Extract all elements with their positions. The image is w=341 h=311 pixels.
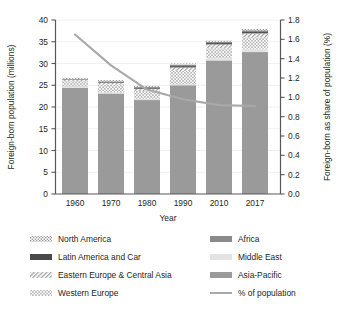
y-axis-right-tick-labels: 1.8 1.6 1.4 1.2 1.0 0.8 0.6 0.4 0.2 0.0 [288,15,300,199]
legend-item-western-europe[interactable]: Western Europe [30,288,119,298]
bar-segment-middle-east [170,84,196,85]
legend-item-latin-america[interactable]: Latin America and Car [30,252,141,262]
legend-swatch-africa [210,236,232,242]
bar-group-1960[interactable] [62,78,88,194]
legend-label-eastern-europe-central-asia: Eastern Europe & Central Asia [58,270,172,280]
legend-label-latin-america: Latin America and Car [58,252,141,262]
bar-segment-middle-east [62,87,88,88]
legend-item-africa[interactable]: Africa [210,234,260,244]
legend-item-asia-pacific[interactable]: Asia-Pacific [210,270,282,280]
bar-segment-western-europe [242,37,268,48]
y-tick-left-35: 35 [39,37,49,47]
legend-swatch-eastern-europe-central-asia [30,272,52,278]
legend-item-middle-east[interactable]: Middle East [210,252,282,262]
chart-legend: North America Latin America and Car East… [30,234,296,298]
bar-segment-north-america [134,86,160,87]
y-axis-right-title: Foreign-born as share of population (%) [322,33,332,181]
y-tick-left-15: 15 [39,124,49,134]
legend-item-north-america[interactable]: North America [30,234,111,244]
bar-segment-asia-pacific [242,52,268,194]
y-tick-right-0-0: 0.0 [288,189,300,199]
legend-label-asia-pacific: Asia-Pacific [238,270,282,280]
x-tick-1990: 1990 [174,198,193,208]
legend-label-western-europe: Western Europe [58,288,119,298]
legend-item-eastern-europe-central-asia[interactable]: Eastern Europe & Central Asia [30,270,172,280]
x-tick-1960: 1960 [66,198,85,208]
bar-segment-eastern-europe-central-asia [62,80,88,81]
y-tick-right-0-4: 0.4 [288,150,300,160]
x-tick-2017: 2017 [246,198,265,208]
y-tick-left-5: 5 [43,167,48,177]
x-tick-1980: 1980 [138,198,157,208]
bar-group-2017[interactable] [242,29,268,194]
bar-segment-north-america [98,80,124,81]
bar-segment-middle-east [206,58,232,60]
bar-group-1990[interactable] [170,64,196,195]
x-axis-title: Year [160,213,177,223]
bar-segment-asia-pacific [98,94,124,194]
bar-segment-latin-america [242,32,268,33]
bar-segment-middle-east [134,99,160,100]
legend-swatch-asia-pacific [210,272,232,278]
legend-label-north-america: North America [58,234,111,244]
y-tick-right-1-6: 1.6 [288,34,300,44]
y-tick-right-0-8: 0.8 [288,112,300,122]
bar-segment-africa [134,87,160,88]
bar-segment-western-europe [98,84,124,92]
bar-segment-africa [170,65,196,66]
y-tick-left-0: 0 [43,189,48,199]
bar-segment-asia-pacific [206,60,232,194]
bar-segment-asia-pacific [62,88,88,194]
y-tick-right-1-0: 1.0 [288,92,300,102]
bar-segment-north-america [170,64,196,65]
y-tick-right-0-6: 0.6 [288,131,300,141]
chart-container: 40 35 30 25 20 15 10 5 0 1.8 1.6 1.4 1.2… [0,0,341,311]
bar-segment-north-america [62,78,88,79]
bar-group-1970[interactable] [98,80,124,194]
legend-swatch-middle-east [210,254,232,260]
x-axis-tick-labels: 1960 1970 1980 1990 2010 2017 [66,198,265,208]
legend-item-percent-of-population[interactable]: % of population [210,288,296,298]
y-axis-left-title: Foreign-born population (millions) [6,44,16,169]
legend-swatch-latin-america [30,254,52,260]
legend-swatch-western-europe [30,290,52,296]
bar-segment-africa [206,42,232,43]
bar-group-2010[interactable] [206,40,232,194]
bar-segment-north-america [206,40,232,41]
bar-segment-western-europe [206,48,232,58]
bar-segment-africa [242,30,268,32]
bar-segment-middle-east [98,93,124,94]
legend-swatch-north-america [30,236,52,242]
x-tick-1970: 1970 [102,198,121,208]
foreign-born-population-stacked-bar-chart: 40 35 30 25 20 15 10 5 0 1.8 1.6 1.4 1.2… [0,0,341,311]
bar-segment-middle-east [242,49,268,52]
bar-segment-asia-pacific [134,100,160,194]
bar-segment-eastern-europe-central-asia [206,44,232,48]
y-tick-left-10: 10 [39,146,49,156]
y-axis-left-tick-labels: 40 35 30 25 20 15 10 5 0 [39,15,49,199]
y-tick-left-30: 30 [39,59,49,69]
y-tick-left-20: 20 [39,102,49,112]
y-tick-right-1-2: 1.2 [288,73,300,83]
y-tick-left-40: 40 [39,15,49,25]
bar-segment-latin-america [98,82,124,83]
legend-label-percent-of-population: % of population [238,288,296,298]
bar-segment-eastern-europe-central-asia [242,33,268,37]
bar-segment-latin-america [206,43,232,44]
y-tick-right-1-4: 1.4 [288,54,300,64]
legend-label-middle-east: Middle East [238,252,282,262]
legend-label-africa: Africa [238,234,260,244]
bar-segment-western-europe [170,71,196,84]
bar-segment-eastern-europe-central-asia [170,67,196,70]
y-tick-left-25: 25 [39,80,49,90]
y-tick-right-0-2: 0.2 [288,170,300,180]
bar-segment-eastern-europe-central-asia [98,83,124,85]
bar-segment-western-europe [62,81,88,87]
bar-segment-north-america [242,29,268,30]
x-tick-2010: 2010 [210,198,229,208]
bar-segment-latin-america [170,66,196,67]
y-tick-right-1-8: 1.8 [288,15,300,25]
bar-group-1980[interactable] [134,86,160,194]
